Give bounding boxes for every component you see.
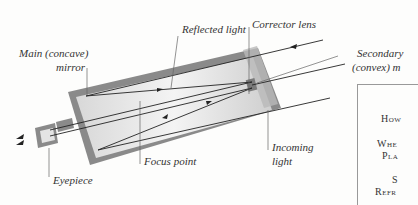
sidebar-item: Pla	[382, 150, 398, 161]
label-main-mirror-line1: Main (concave)	[19, 48, 88, 59]
label-corrector-lens: Corrector lens	[252, 19, 316, 30]
label-focus-point: Focus point	[144, 156, 196, 167]
eyepiece	[35, 118, 74, 148]
label-secondary-mirror-line2: (convex) m	[352, 62, 401, 73]
label-reflected-light: Reflected light	[182, 24, 246, 35]
sidebar-item: S	[392, 174, 398, 185]
label-incoming-light-line1: Incoming	[272, 142, 314, 153]
label-main-mirror-line2: mirror	[56, 62, 85, 73]
label-secondary-mirror-line1: Secondary	[357, 48, 403, 59]
label-eyepiece: Eyepiece	[53, 175, 93, 186]
sidebar-item: How	[381, 113, 401, 124]
sidebar-item: Whe	[377, 138, 397, 149]
sidebar-item: Refr	[375, 186, 397, 197]
label-incoming-light-line2: light	[272, 156, 292, 167]
